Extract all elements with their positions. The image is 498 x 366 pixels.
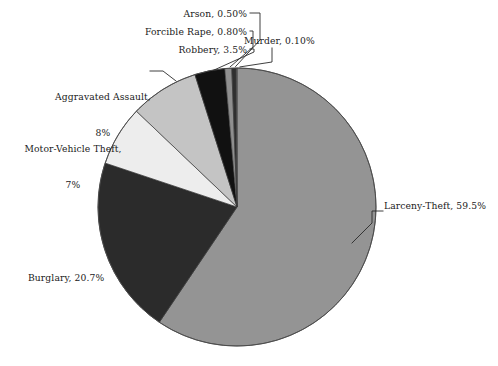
pie-label-burglary: Burglary, 20.7% — [28, 272, 158, 284]
pie-label-motor-vehicle-theft-line1: Motor-Vehicle Theft, — [8, 143, 138, 155]
pie-chart-figure: Arson, 0.50% Forcible Rape, 0.80% Robber… — [0, 0, 498, 366]
pie-label-robbery: Robbery, 3.5% — [97, 44, 247, 56]
pie-label-murder: Murder, 0.10% — [244, 35, 354, 47]
pie-label-forcible-rape: Forcible Rape, 0.80% — [107, 26, 247, 38]
pie-label-arson: Arson, 0.50% — [157, 8, 247, 20]
pie-label-motor-vehicle-theft-line2: 7% — [8, 179, 138, 191]
pie-label-larceny-theft: Larceny-Theft, 59.5% — [384, 200, 498, 212]
pie-label-aggravated-assault-line1: Aggravated Assault, — [38, 91, 168, 103]
pie-label-motor-vehicle-theft: Motor-Vehicle Theft, 7% — [8, 119, 138, 215]
